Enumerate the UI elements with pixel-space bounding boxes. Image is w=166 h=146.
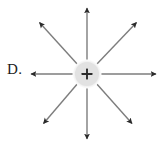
arrow-up-right <box>96 23 137 66</box>
electric-field-figure: D. <box>0 0 166 146</box>
field-lines-diagram <box>0 0 166 146</box>
arrow-down-left <box>44 83 79 124</box>
choice-label: D. <box>7 62 23 77</box>
positive-point-charge <box>73 60 102 89</box>
arrow-down-right <box>96 83 133 124</box>
arrow-up-left <box>40 23 79 66</box>
